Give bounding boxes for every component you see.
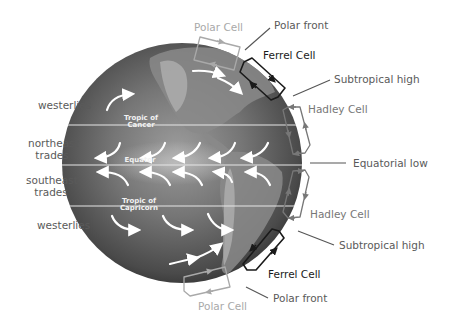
label-northeast-trades: northeast trades	[28, 137, 76, 161]
globe	[60, 43, 305, 283]
label-ferrel-cell-north: Ferrel Cell	[263, 49, 316, 61]
label-equator: Equator	[118, 157, 162, 164]
label-equatorial-low: Equatorial low	[353, 157, 428, 169]
label-subtropical-high-north: Subtropical high	[334, 73, 420, 85]
tropic-capricorn-line2: Capricorn	[114, 205, 164, 212]
label-southeast-trades: southeast trades	[26, 174, 76, 198]
label-polar-cell-north: Polar Cell	[194, 21, 243, 33]
label-polar-front-north: Polar front	[274, 19, 328, 31]
label-westerlies-south: westerlies	[37, 219, 90, 231]
label-polar-cell-south: Polar Cell	[198, 300, 247, 312]
label-trades-se: trades	[26, 186, 76, 198]
label-tropic-of-cancer: Tropic of Cancer	[118, 115, 164, 130]
label-westerlies-north: westerlies	[38, 99, 91, 111]
tropic-cancer-line2: Cancer	[118, 122, 164, 129]
label-hadley-cell-north: Hadley Cell	[308, 103, 368, 115]
label-trades-ne: trades	[28, 149, 76, 161]
label-hadley-cell-south: Hadley Cell	[310, 208, 370, 220]
label-tropic-of-capricorn: Tropic of Capricorn	[114, 198, 164, 213]
label-polar-front-south: Polar front	[273, 292, 327, 304]
label-ferrel-cell-south: Ferrel Cell	[268, 268, 321, 280]
label-northeast: northeast	[28, 137, 76, 149]
label-southeast: southeast	[26, 174, 76, 186]
circulation-diagram: westerlies northeast trades southeast tr…	[0, 0, 449, 328]
label-subtropical-high-south: Subtropical high	[339, 239, 425, 251]
